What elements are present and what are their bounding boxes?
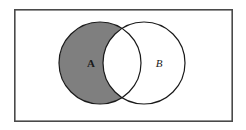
- venn-diagram-canvas: A B: [0, 0, 246, 130]
- set-b-label: B: [156, 57, 163, 69]
- set-a-label: A: [87, 57, 95, 69]
- venn-diagram-figure: A B: [0, 0, 246, 130]
